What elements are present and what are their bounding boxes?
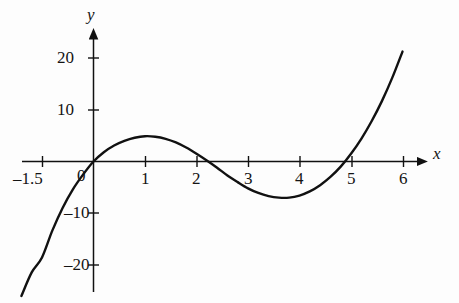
x-tick-label-3: 3: [244, 170, 253, 187]
origin-label: 0: [77, 167, 86, 184]
y-tick-label--20: –20: [64, 256, 90, 273]
y-tick-label-20: 20: [57, 49, 74, 66]
x-tick-label-1: 1: [141, 170, 150, 187]
x-tick-label-6: 6: [399, 170, 408, 187]
y-tick-label--10: –10: [64, 204, 90, 221]
x-tick-label-5: 5: [347, 170, 356, 187]
x-tick-label-2: 2: [192, 170, 201, 187]
y-tick-label-10: 10: [57, 101, 74, 118]
x-axis-label: x: [433, 145, 441, 162]
x-tick-label--1.5: –1.5: [13, 170, 43, 187]
y-axis-label: y: [87, 6, 95, 23]
graph-figure: y x 20 10 –10 –20 0 –1.5 1 2 3 4 5 6: [0, 0, 459, 303]
x-tick-label-4: 4: [295, 170, 304, 187]
